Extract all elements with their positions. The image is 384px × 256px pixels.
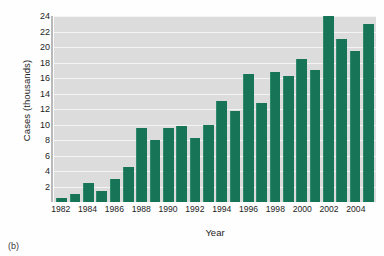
bar-cell xyxy=(242,16,255,202)
bar-cell xyxy=(295,16,308,202)
x-axis-ticks: 1982198419861988199019921994199619982000… xyxy=(54,204,376,218)
x-tick-label: 2000 xyxy=(293,204,312,214)
bar xyxy=(110,179,121,202)
x-tick-label: 1982 xyxy=(51,204,70,214)
y-tick-label: 4 xyxy=(45,166,50,176)
x-tick-label: 1992 xyxy=(185,204,204,214)
bar xyxy=(283,76,294,202)
y-tick-label: 24 xyxy=(40,11,50,21)
bar xyxy=(176,126,187,202)
x-tick-label: 1990 xyxy=(158,204,177,214)
bar xyxy=(83,183,94,202)
bar-cell xyxy=(348,16,361,202)
y-tick-label: 12 xyxy=(40,104,50,114)
y-tick-label: 20 xyxy=(40,42,50,52)
y-tick-label: 10 xyxy=(40,120,50,130)
bar-cell xyxy=(215,16,228,202)
bar-series xyxy=(54,16,376,202)
bar-cell xyxy=(268,16,281,202)
x-tick-label: 2002 xyxy=(319,204,338,214)
bar xyxy=(323,16,334,202)
bar xyxy=(243,74,254,202)
figure-caption: (b) xyxy=(8,241,19,251)
bar-cell xyxy=(322,16,335,202)
bar xyxy=(336,39,347,202)
bar-cell xyxy=(282,16,295,202)
figure-root: Cases (thousands) 24222018161412108642 1… xyxy=(0,0,384,256)
bar xyxy=(136,128,147,202)
y-tick-label: 16 xyxy=(40,73,50,83)
bar xyxy=(190,138,201,202)
bar-cell xyxy=(335,16,348,202)
y-tick-label: 14 xyxy=(40,89,50,99)
bar-cell xyxy=(202,16,215,202)
bar xyxy=(203,125,214,202)
bar xyxy=(310,70,321,202)
bar-cell xyxy=(55,16,68,202)
x-tick-label: 1988 xyxy=(132,204,151,214)
bar xyxy=(363,24,374,202)
x-tick-label: 1998 xyxy=(266,204,285,214)
x-tick-label: 1994 xyxy=(212,204,231,214)
x-axis-title: Year xyxy=(54,227,376,238)
bar xyxy=(270,72,281,202)
bar xyxy=(150,140,161,202)
bar xyxy=(123,167,134,202)
bar xyxy=(230,111,241,202)
bar-cell xyxy=(255,16,268,202)
bar-cell xyxy=(308,16,321,202)
x-tick-label: 1984 xyxy=(78,204,97,214)
bar-cell xyxy=(188,16,201,202)
bar-cell xyxy=(82,16,95,202)
bar xyxy=(256,103,267,202)
y-tick-label: 22 xyxy=(40,27,50,37)
bar-cell xyxy=(228,16,241,202)
x-tick-label: 1996 xyxy=(239,204,258,214)
bar-cell xyxy=(95,16,108,202)
y-tick-label: 18 xyxy=(40,58,50,68)
bar-cell xyxy=(135,16,148,202)
bar xyxy=(56,198,67,202)
bar xyxy=(70,194,81,202)
bar-cell xyxy=(362,16,375,202)
bar xyxy=(163,128,174,202)
bar-cell xyxy=(122,16,135,202)
bar-cell xyxy=(175,16,188,202)
bar-cell xyxy=(148,16,161,202)
y-tick-label: 6 xyxy=(45,151,50,161)
x-tick-label: 1986 xyxy=(105,204,124,214)
y-tick-label: 8 xyxy=(45,135,50,145)
bar xyxy=(96,191,107,202)
bar-cell xyxy=(162,16,175,202)
bar xyxy=(296,59,307,202)
bar xyxy=(350,51,361,202)
y-axis-line xyxy=(51,16,53,202)
y-tick-label: 2 xyxy=(45,182,50,192)
bar xyxy=(216,101,227,202)
bar-cell xyxy=(68,16,81,202)
plot-area xyxy=(54,16,376,202)
x-tick-label: 2004 xyxy=(346,204,365,214)
plot-area-wrapper xyxy=(54,16,376,202)
bar-cell xyxy=(108,16,121,202)
y-axis-ticks: 24222018161412108642 xyxy=(28,12,50,202)
